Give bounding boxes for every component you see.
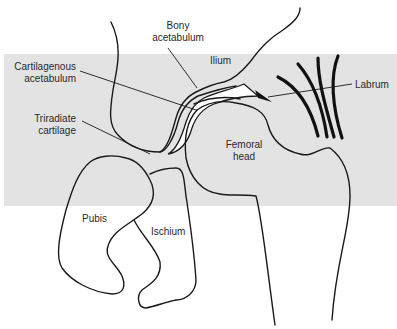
label-cartilagenous-2: acetabulum <box>24 73 76 84</box>
hip-anatomy-diagram: Bony acetabulum Ilium Cartilagenous acet… <box>0 0 397 329</box>
diagram-canvas: Bony acetabulum Ilium Cartilagenous acet… <box>0 0 397 329</box>
label-bony-acetabulum-1: Bony <box>167 20 190 31</box>
label-ilium: Ilium <box>210 55 231 66</box>
label-femoral-1: Femoral <box>226 139 263 150</box>
label-labrum: Labrum <box>355 79 389 90</box>
label-cartilagenous-1: Cartilagenous <box>14 61 76 72</box>
label-femoral-2: head <box>233 151 255 162</box>
label-pubis: Pubis <box>82 213 107 224</box>
label-bony-acetabulum-2: acetabulum <box>152 32 204 43</box>
label-triradiate-2: cartilage <box>38 125 76 136</box>
label-ischium: Ischium <box>151 226 185 237</box>
label-triradiate-1: Triradiate <box>34 113 76 124</box>
